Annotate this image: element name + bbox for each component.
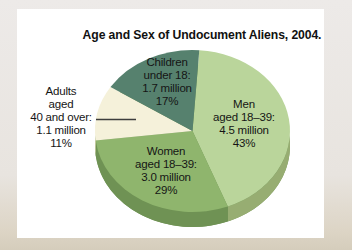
label-men-line: Men [189, 98, 299, 111]
label-adults-line: 40 and over: [6, 111, 116, 124]
label-men: Men aged 18–39: 4.5 million 43% [189, 98, 299, 150]
label-children-line: Children [112, 56, 222, 69]
label-adults-line: Adults [6, 85, 116, 98]
label-adults-line: 1.1 million [6, 124, 116, 137]
label-women-line: 3.0 million [111, 171, 221, 184]
label-men-line: 4.5 million [189, 124, 299, 137]
label-adults: Adults aged 40 and over: 1.1 million 11% [6, 85, 116, 150]
label-women: Women aged 18–39: 3.0 million 29% [111, 145, 221, 197]
label-adults-line: aged [6, 98, 116, 111]
label-children-line: 1.7 million [112, 82, 222, 95]
label-men-line: aged 18–39: [189, 111, 299, 124]
label-adults-line: 11% [6, 137, 116, 150]
label-women-line: aged 18–39: [111, 158, 221, 171]
label-children-line: under 18: [112, 69, 222, 82]
label-women-line: Women [111, 145, 221, 158]
label-women-line: 29% [111, 184, 221, 197]
